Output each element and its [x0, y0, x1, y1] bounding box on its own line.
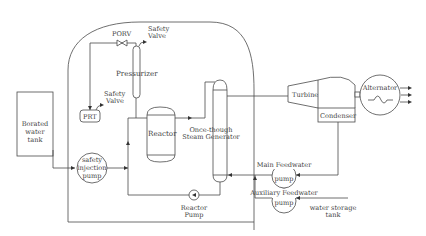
main-feedwater-label: Main Feedwater — [257, 161, 313, 169]
borated-water-tank-label-3: tank — [28, 136, 44, 144]
safety-valve-top-label-2: Valve — [147, 32, 166, 40]
si-pump-label-3: pump — [83, 172, 102, 180]
arrow-icon — [71, 166, 75, 170]
pwr-plant-diagram: PORV Safety Valve Pressurizer PRT Safety… — [0, 0, 426, 236]
arrow-icon — [100, 103, 104, 107]
arrow-icon — [88, 106, 92, 110]
shaft-coupling — [355, 92, 360, 97]
auxiliary-feedwater-label: Auxiliary Feedwater — [249, 189, 318, 197]
si-pump-label-2: injection — [78, 164, 108, 172]
arrow-icon — [124, 166, 128, 170]
pressurizer-label: Pressurizer — [116, 69, 158, 78]
arrow-icon — [188, 116, 192, 120]
turbine-casing — [318, 77, 355, 108]
arrow-icon — [296, 173, 300, 177]
bottom-return-line — [68, 218, 254, 222]
reactor-pump-label-2: Pump — [184, 211, 203, 219]
arrow-icon — [143, 40, 147, 44]
output-arrows-icon — [400, 86, 412, 104]
borated-water-tank-label-2: water — [25, 128, 45, 136]
condenser-label: Condenser — [320, 112, 357, 120]
steam-generator-label-2: Steam Generator — [182, 133, 240, 141]
porv-label: PORV — [112, 30, 132, 38]
borated-outlet-line — [53, 150, 75, 168]
borated-water-tank-label: Borated — [22, 120, 49, 128]
arrow-icon — [126, 141, 130, 145]
si-pump-label: safety — [82, 156, 102, 164]
arrow-icon — [228, 173, 232, 177]
alternator — [360, 75, 400, 115]
prt-label: PRT — [83, 113, 97, 121]
alternator-label: Alternator — [362, 84, 398, 92]
water-storage-tank-label-2: tank — [326, 211, 342, 219]
turbine-label: Turbine — [292, 91, 318, 99]
auxiliary-feedwater-label-2: pump — [275, 199, 294, 207]
main-feedwater-label-2: pump — [275, 175, 294, 183]
safety-valve-prt-label-2: Valve — [105, 97, 124, 105]
porv-valve-icon — [117, 40, 127, 46]
primary-hot-leg — [175, 82, 215, 118]
reactor-label: Reactor — [148, 129, 177, 138]
